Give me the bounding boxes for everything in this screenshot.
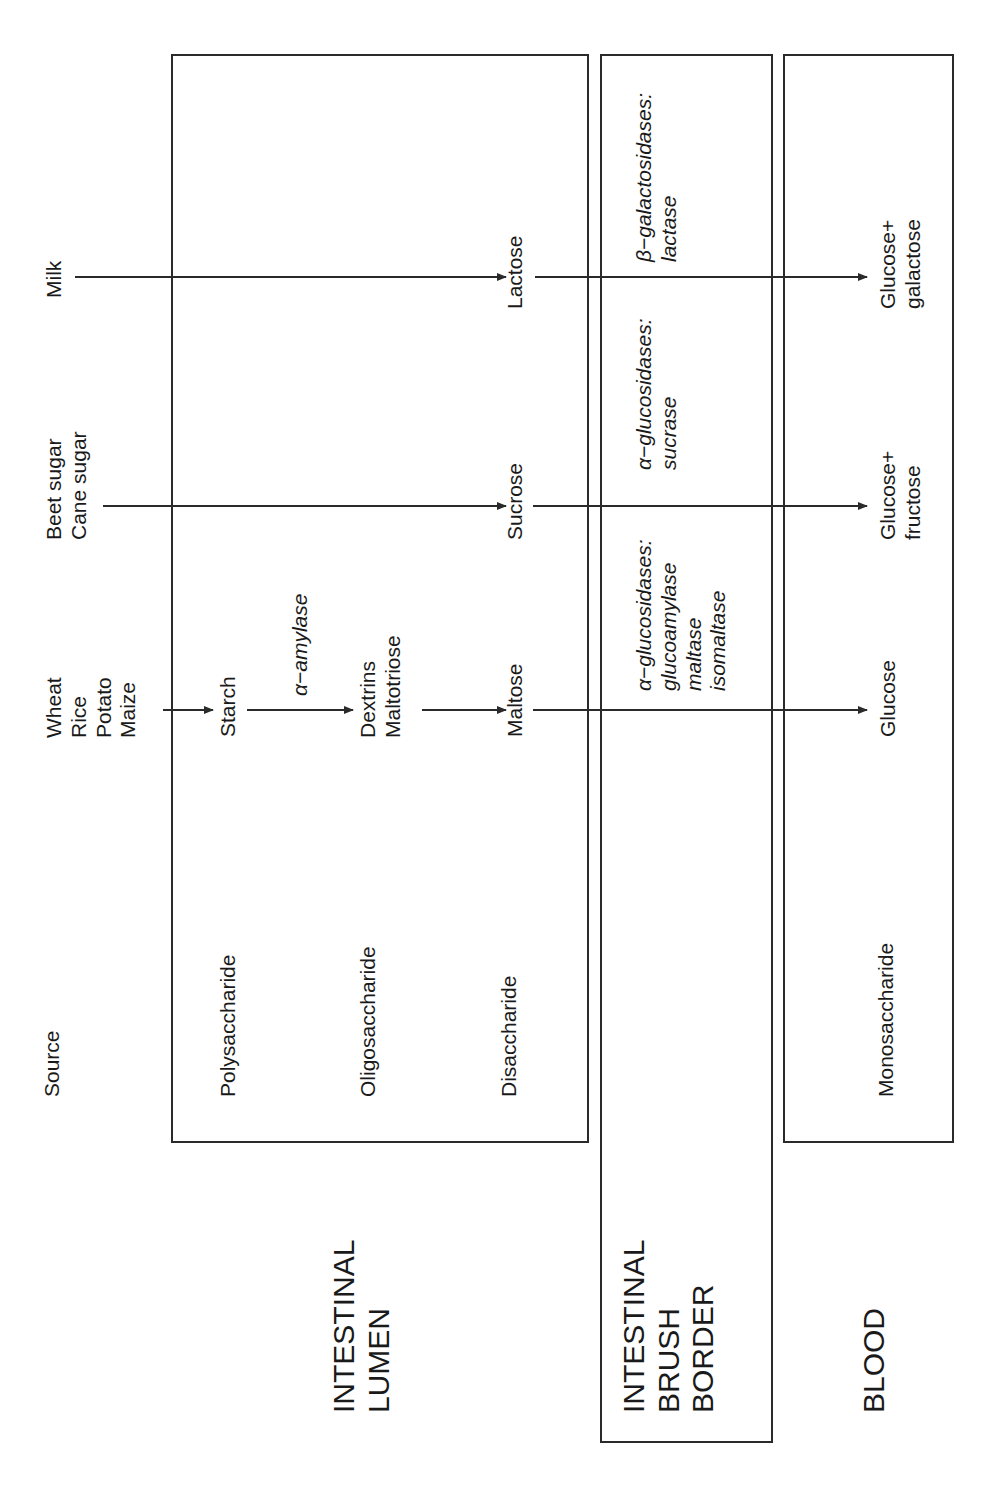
row-header-disaccharide: Disaccharide	[497, 976, 522, 1097]
row-header-source: Source	[40, 1030, 65, 1097]
enzyme-alpha-amylase: α−amylase	[288, 594, 313, 696]
compartment-intestinal-lumen: INTESTINAL LUMEN	[327, 1240, 396, 1413]
row-header-polysaccharide: Polysaccharide	[216, 955, 241, 1097]
node-starch: Starch	[216, 676, 241, 737]
node-maltose: Maltose	[503, 663, 528, 737]
compartment-blood: BLOOD	[857, 1308, 892, 1413]
enzyme-maltose-glucosidases: α−glucosidases: glucoamylase maltase iso…	[632, 540, 731, 691]
node-dextrins-maltotriose: Dextrins Maltotriose	[356, 635, 406, 738]
compartment-brush-border: INTESTINAL BRUSH BORDER	[617, 1240, 721, 1413]
node-sucrose: Sucrose	[503, 463, 528, 540]
row-header-oligosaccharide: Oligosaccharide	[356, 946, 381, 1097]
source-beet-cane-sugar: Beet sugar Cane sugar	[42, 431, 92, 540]
node-lactose: Lactose	[503, 235, 528, 309]
enzyme-sucrase: α−glucosidases: sucrase	[632, 319, 682, 470]
source-grains: Wheat Rice Potato Maize	[42, 677, 141, 738]
node-glucose-galactose: Glucose+ galactose	[876, 219, 926, 309]
enzyme-lactase: β−galactosidases: lactase	[632, 93, 682, 262]
arrows-layer	[0, 0, 995, 1507]
source-milk: Milk	[42, 261, 67, 298]
node-glucose-fructose: Glucose+ fructose	[876, 451, 926, 540]
node-glucose: Glucose	[876, 660, 901, 737]
row-header-monosaccharide: Monosaccharide	[874, 943, 899, 1097]
